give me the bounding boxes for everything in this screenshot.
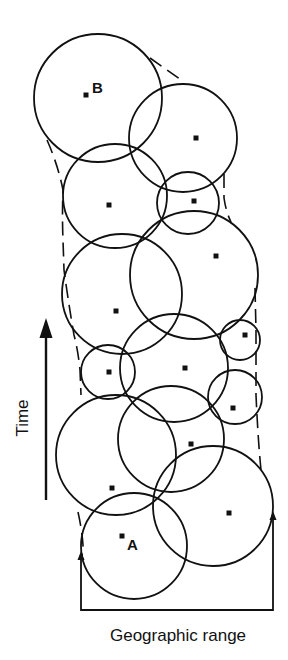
population-circle <box>220 320 260 360</box>
centroid-dot <box>227 511 232 516</box>
population-circle <box>34 34 162 162</box>
centroid-dot <box>183 366 188 371</box>
centroid-dot <box>120 534 125 539</box>
centroid-dot <box>110 486 115 491</box>
point-label-a: A <box>127 536 138 553</box>
y-axis-label: Time <box>13 399 32 436</box>
range-envelope-right <box>150 58 261 470</box>
centroid-dot <box>194 136 199 141</box>
centroid-dot <box>231 406 236 411</box>
population-circles <box>34 34 273 599</box>
point-label-b: B <box>92 79 103 96</box>
centroid-dot <box>214 254 219 259</box>
population-circle <box>153 446 273 566</box>
population-circle <box>118 386 224 492</box>
population-circle <box>208 370 262 424</box>
time-arrow <box>40 318 53 500</box>
centroid-dot <box>243 333 248 338</box>
geographic-range-bracket <box>81 518 273 610</box>
range-envelope-left <box>47 140 83 557</box>
arrow-up-icon <box>40 318 53 338</box>
population-circle <box>129 84 237 192</box>
centroid-dot <box>114 309 119 314</box>
x-axis-label: Geographic range <box>110 626 246 645</box>
population-circle <box>62 234 182 354</box>
centroid-dot <box>107 203 112 208</box>
bracket-arrowheads <box>78 511 277 560</box>
centroid-dot <box>84 93 89 98</box>
centroid-dot <box>189 442 194 447</box>
diagram-canvas: B A Time Geographic range <box>0 0 288 660</box>
centroid-dot <box>107 370 112 375</box>
centroid-dot <box>192 199 197 204</box>
